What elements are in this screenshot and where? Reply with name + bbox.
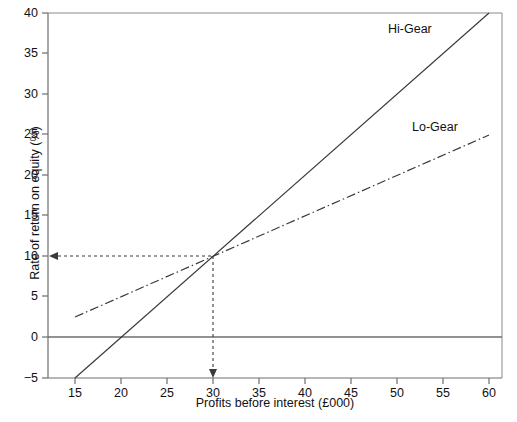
y-tick-label-0: 0 [4,330,38,344]
chart-plot-area [0,0,517,422]
y-tick-label-40: 40 [4,6,38,20]
chart-figure: −5 0 5 10 15 20 25 30 35 40 15 20 25 30 … [0,0,517,422]
y-tick-label--5: −5 [4,371,38,385]
x-tick-label-20: 20 [104,386,138,400]
y-axis-ticks [42,13,48,378]
series-label-hi-gear: Hi-Gear [388,22,432,36]
x-axis-title: Profits before interest (£000) [145,396,405,410]
x-axis-ticks [75,378,489,384]
y-axis-title: Rate of return on equity (%) [28,83,42,323]
x-tick-label-60: 60 [472,386,506,400]
plot-background [48,13,502,378]
x-tick-label-55: 55 [426,386,460,400]
y-tick-label-35: 35 [4,46,38,60]
x-tick-label-15: 15 [58,386,92,400]
series-label-lo-gear: Lo-Gear [412,120,458,134]
